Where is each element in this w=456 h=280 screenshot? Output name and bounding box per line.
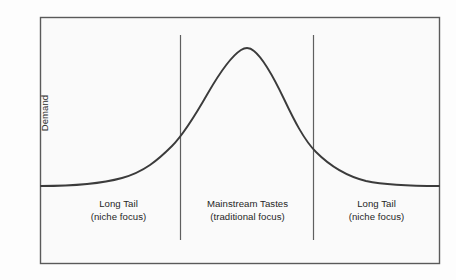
zone-label-line2: (niche focus): [56, 210, 181, 223]
plot-background: [41, 18, 440, 264]
zone-label-line1: Long Tail: [357, 198, 396, 209]
zone-label-long-tail-left: Long Tail (niche focus): [56, 197, 181, 223]
zone-label-long-tail-right: Long Tail (niche focus): [314, 197, 439, 223]
y-axis-label: Demand: [37, 78, 53, 148]
zone-label-line1: Long Tail: [99, 198, 138, 209]
chart-canvas: [0, 0, 456, 280]
zone-label-line1: Mainstream Tastes: [207, 198, 288, 209]
long-tail-demand-figure: Demand Long Tail (niche focus) Mainstrea…: [0, 0, 456, 280]
zone-label-line2: (niche focus): [314, 210, 439, 223]
zone-label-mainstream-tastes: Mainstream Tastes (traditional focus): [181, 197, 314, 223]
zone-label-line2: (traditional focus): [181, 210, 314, 223]
